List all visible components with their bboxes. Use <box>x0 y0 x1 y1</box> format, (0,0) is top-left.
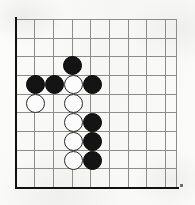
black-stone <box>83 132 102 151</box>
grid-line-horizontal <box>16 38 176 39</box>
white-stone <box>64 94 83 113</box>
board-edge-bottom <box>15 187 179 189</box>
white-stone <box>26 94 45 113</box>
grid-line-vertical <box>165 19 166 187</box>
black-stone <box>45 75 64 94</box>
black-stone <box>26 75 45 94</box>
grid-line-horizontal <box>16 19 176 20</box>
black-stone <box>83 113 102 132</box>
go-board-diagram <box>0 0 195 205</box>
black-stone <box>63 56 82 75</box>
black-stone <box>83 75 102 94</box>
black-stone <box>83 151 102 170</box>
grid-line-vertical <box>146 19 147 187</box>
grid-line-vertical <box>109 19 110 187</box>
grid-line-vertical <box>53 19 54 187</box>
corner-tick-mark <box>180 184 183 187</box>
white-stone <box>64 132 83 151</box>
grid-line-vertical <box>128 19 129 187</box>
white-stone <box>64 113 83 132</box>
white-stone <box>64 75 83 94</box>
grid-line-horizontal <box>16 56 176 57</box>
white-stone <box>64 151 83 170</box>
board-edge-left <box>15 17 17 189</box>
grid-line-vertical <box>176 19 177 187</box>
